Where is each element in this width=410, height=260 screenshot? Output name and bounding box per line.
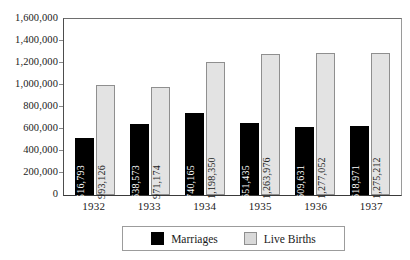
x-axis: 193219331934193519361937	[63, 199, 402, 215]
bar-chart: 1,600,000 1,400,000 1,200,000 1,000,000 …	[0, 0, 410, 260]
bar-live-births-1935: 1,263,976	[261, 54, 280, 195]
y-tick-label: 1,000,000	[0, 79, 58, 89]
legend-entry-marriages: Marriages	[151, 232, 218, 245]
legend-label: Marriages	[171, 233, 218, 245]
y-tick-label: 1,600,000	[0, 13, 58, 23]
legend-entry-live-births: Live Births	[244, 232, 316, 245]
bar-live-births-1934: 1,198,350	[206, 62, 225, 195]
bar-marriages-1936: 609,631	[295, 127, 314, 195]
bar-group-1937: 618,9711,275,212	[343, 19, 398, 195]
y-tick-label: 1,400,000	[0, 35, 58, 45]
bar-marriages-1935: 651,435	[240, 123, 259, 195]
bar-live-births-1932: 993,126	[96, 85, 115, 195]
bar-live-births-1936: 1,277,052	[316, 53, 335, 195]
y-tick-label: 1,200,000	[0, 57, 58, 67]
bar-marriages-1932: 516,793	[75, 138, 94, 195]
x-tick-label-1935: 1935	[233, 199, 289, 215]
legend-swatch-icon	[244, 232, 257, 245]
x-tick-label-1937: 1937	[344, 199, 400, 215]
y-tick-label: 0	[0, 189, 58, 199]
y-tick-label: 200,000	[0, 167, 58, 177]
plot-area: 516,793993,126638,573971,174740,1651,198…	[63, 18, 402, 196]
bar-group-1934: 740,1651,198,350	[177, 19, 232, 195]
legend-label: Live Births	[264, 233, 316, 245]
chart-legend: Marriages Live Births	[122, 226, 345, 251]
bar-group-1935: 651,4351,263,976	[233, 19, 288, 195]
x-tick-label-1936: 1936	[288, 199, 344, 215]
bar-group-1933: 638,573971,174	[122, 19, 177, 195]
bar-group-1932: 516,793993,126	[67, 19, 122, 195]
bar-group-1936: 609,6311,277,052	[288, 19, 343, 195]
bars-layer: 516,793993,126638,573971,174740,1651,198…	[64, 19, 401, 195]
y-tick-label: 400,000	[0, 145, 58, 155]
x-tick-label-1934: 1934	[177, 199, 233, 215]
bar-marriages-1933: 638,573	[130, 124, 149, 195]
x-tick-label-1933: 1933	[122, 199, 178, 215]
x-tick-label-1932: 1932	[66, 199, 122, 215]
bar-live-births-1937: 1,275,212	[371, 53, 390, 195]
bar-marriages-1934: 740,165	[185, 113, 204, 195]
bar-live-births-1933: 971,174	[151, 87, 170, 195]
bar-marriages-1937: 618,971	[350, 126, 369, 195]
y-tick-label: 600,000	[0, 123, 58, 133]
y-axis: 1,600,000 1,400,000 1,200,000 1,000,000 …	[0, 13, 58, 199]
y-tick-label: 800,000	[0, 101, 58, 111]
legend-swatch-icon	[151, 232, 164, 245]
